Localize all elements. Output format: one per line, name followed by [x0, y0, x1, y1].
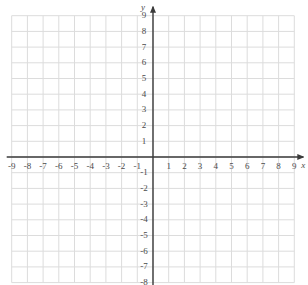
coordinate-grid-figure: -9-8-7-6-5-4-3-2-1123456789987654321-1-2… — [0, 0, 308, 285]
axes — [0, 0, 308, 285]
